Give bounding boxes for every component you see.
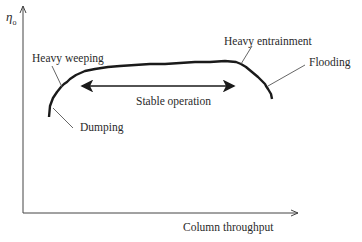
flooding-pointer	[268, 65, 305, 86]
efficiency-curve	[49, 61, 272, 117]
y-axis-label: ηo	[6, 10, 16, 27]
heavy-weeping-pointer	[52, 66, 62, 87]
heavy-entrainment-pointer	[241, 46, 252, 64]
stable-operation-label: Stable operation	[136, 96, 211, 108]
dumping-pointer	[53, 108, 73, 128]
x-axis-label: Column throughput	[183, 222, 273, 234]
flooding-label: Flooding	[309, 57, 351, 69]
heavy-entrainment-label: Heavy entrainment	[224, 36, 312, 48]
heavy-weeping-label: Heavy weeping	[32, 53, 104, 65]
dumping-label: Dumping	[80, 122, 123, 134]
